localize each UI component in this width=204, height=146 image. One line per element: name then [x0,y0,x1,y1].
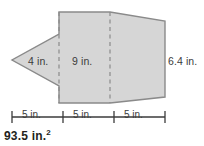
label-right-height: 6.4 in. [168,56,197,67]
ruler-segment-label-3: 5 in. [124,110,143,120]
area-answer: 93.5 in.2 [4,128,51,143]
composite-shape-svg [0,0,204,146]
geometry-figure: 4 in. 9 in. 6.4 in. 5 in. 5 in. 5 in. 93… [0,0,204,146]
ruler-segment-label-1: 5 in. [22,110,41,120]
label-middle-height: 9 in. [72,56,92,67]
area-answer-value: 93.5 in. [4,129,46,143]
ruler-segment-label-2: 5 in. [73,110,92,120]
area-answer-exponent: 2 [46,128,51,137]
label-left-height: 4 in. [28,56,48,67]
